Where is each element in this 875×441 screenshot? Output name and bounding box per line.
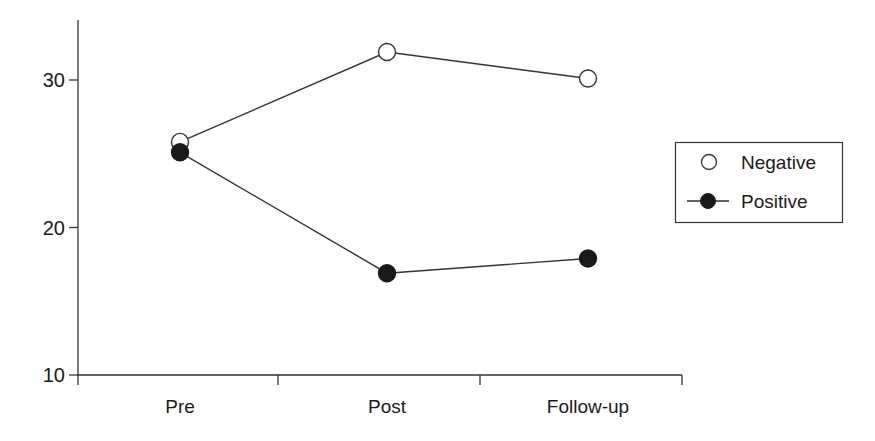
legend-label-negative: Negative [741,152,816,173]
y-tick-label: 30 [43,69,65,91]
filled-circle-icon [172,144,189,161]
x-tick-label: Post [368,396,407,417]
filled-circle-icon [580,250,597,267]
y-axis-tick-labels: 102030 [43,69,65,386]
series-line-negative [180,52,588,142]
y-tick-label: 20 [43,217,65,239]
y-tick-label: 10 [43,364,65,386]
legend: Negative Positive [676,143,843,223]
series-markers [172,44,597,282]
series-lines [180,52,588,273]
legend-label-positive: Positive [741,191,808,212]
open-circle-icon [702,155,717,170]
filled-circle-icon [701,194,716,209]
open-circle-icon [580,70,597,87]
x-tick-label: Follow-up [547,396,629,417]
x-axis-tick-labels: PrePostFollow-up [165,396,629,417]
x-tick-label: Pre [165,396,195,417]
open-circle-icon [379,44,396,61]
line-chart: 102030 PrePostFollow-up Negative Positiv… [0,0,875,441]
series-line-positive [180,152,588,273]
filled-circle-icon [379,265,396,282]
